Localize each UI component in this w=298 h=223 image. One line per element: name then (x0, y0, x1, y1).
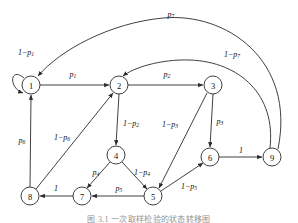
edge-label-2-3: p2 (163, 70, 171, 80)
edge-label-8-1: p6 (18, 136, 26, 146)
edge-label-2-4: 1−p2 (123, 119, 139, 129)
edge-label-6-9: 1 (239, 146, 243, 155)
node-label-7: 7 (80, 192, 84, 202)
figure-caption: 图 3.1 一次取样检验的状态转移图 (0, 213, 298, 223)
figure-container: 1 2 3 4 5 6 7 8 9 1−p1 p1 p2 1−p2 p3 1−p… (0, 0, 298, 223)
edge-9-1 (38, 17, 281, 149)
edge-label-4-7: p4 (92, 168, 100, 178)
edge-label-4-5: 1−p4 (134, 168, 150, 178)
edge-label-3-6: p3 (216, 117, 224, 127)
edge-3-5 (159, 93, 207, 188)
edge-8-1 (30, 95, 31, 187)
edge-label-7-8: 1 (54, 184, 58, 193)
node-label-9: 9 (270, 153, 274, 163)
edge-3-6 (210, 94, 213, 147)
edge-label-5-6: 1−p5 (181, 182, 197, 192)
node-label-5: 5 (151, 192, 155, 202)
transition-diagram-canvas: 1 2 3 4 5 6 7 8 9 1−p1 p1 p2 1−p2 p3 1−p… (0, 0, 298, 223)
node-label-8: 8 (28, 192, 32, 202)
edge-label-3-5: 1−p3 (162, 120, 178, 130)
node-label-1: 1 (29, 81, 33, 91)
node-label-2: 2 (117, 81, 121, 91)
edge-9-2 (123, 60, 271, 148)
edge-2-4 (116, 94, 119, 145)
edge-label-9-1: p7 (167, 10, 175, 20)
edge-8-2 (36, 93, 113, 189)
node-label-6: 6 (208, 153, 212, 163)
edge-label-5-7: p5 (115, 184, 123, 194)
edge-label-9-2: 1−p7 (224, 50, 240, 60)
node-label-3: 3 (211, 81, 215, 91)
edge-label-1-2: p1 (69, 70, 77, 80)
edge-label-1-1: 1−p1 (18, 48, 34, 58)
edge-label-8-2: 1−p6 (54, 133, 70, 143)
